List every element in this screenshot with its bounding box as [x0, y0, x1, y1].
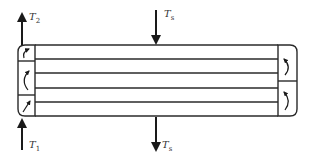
label-ts-bottom: Ts [162, 139, 173, 153]
label-ts-top: Ts [164, 8, 175, 22]
flow-arrow-icon [284, 59, 288, 75]
flow-arrow-icon [24, 49, 29, 58]
tube-lines [35, 45, 278, 116]
left-header [18, 45, 35, 116]
label-t2: T2 [29, 11, 40, 25]
flow-arrow-icon [284, 92, 288, 110]
flow-arrow-icon [24, 71, 29, 90]
flow-arrow-icon [23, 101, 30, 112]
label-t1: T1 [29, 139, 40, 153]
heat-exchanger-diagram: T2 T1 Ts Ts [0, 0, 312, 155]
